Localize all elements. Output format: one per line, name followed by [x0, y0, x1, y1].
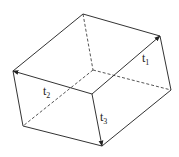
edge-HG [23, 126, 102, 146]
parallelepiped-diagram: t1 t2 t3 [0, 0, 179, 157]
edge-AB [83, 14, 160, 36]
label-t2: t2 [43, 84, 50, 100]
edge-EH [102, 90, 171, 146]
label-t3: t3 [100, 110, 107, 126]
visible-edges [13, 14, 171, 146]
label-t1: t1 [142, 51, 149, 67]
vector-t1-arrow [92, 36, 160, 94]
hidden-edge-FG [23, 70, 93, 126]
hidden-edge-AF [83, 14, 93, 70]
edge-GC [13, 71, 23, 126]
edge-BE [160, 36, 171, 90]
vector-t2-arrow [13, 71, 92, 94]
hidden-edge-FE [93, 70, 171, 90]
edge-AC [13, 14, 83, 71]
hidden-edges [23, 14, 171, 126]
